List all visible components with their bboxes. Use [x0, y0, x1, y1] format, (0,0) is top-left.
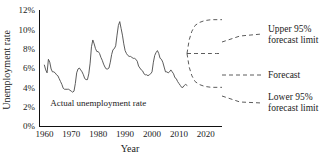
- x-tick-label: 2000: [143, 129, 162, 139]
- x-tick-label: 2010: [170, 129, 189, 139]
- legend-forecast-label: Forecast: [268, 70, 301, 80]
- x-tick-label: 1960: [35, 129, 54, 139]
- y-tick-label: 4%: [23, 83, 36, 93]
- y-tick-label: 12%: [19, 5, 36, 15]
- y-axis-title: Unemployment rate: [1, 30, 12, 110]
- y-tick-label: 10%: [19, 25, 36, 35]
- legend-lower-limit-label-line1: Lower 95%: [268, 92, 313, 102]
- legend-upper-limit-label-line2: forecast limit: [268, 35, 319, 45]
- actual-series-annotation: Actual unemployment rate: [50, 98, 146, 108]
- x-tick-label: 1990: [116, 129, 135, 139]
- chart-figure: Unemployment rate 0%2%4%6%8%10%12% 19601…: [0, 0, 322, 162]
- y-tick-label: 6%: [23, 63, 36, 73]
- y-tick-label: 0%: [23, 121, 36, 131]
- legend-lower-limit-label-line2: forecast limit: [268, 103, 319, 113]
- y-tick-label: 2%: [23, 102, 36, 112]
- x-tick-label: 2020: [197, 129, 216, 139]
- x-tick-label: 1980: [89, 129, 108, 139]
- legend-upper-limit-label-line1: Upper 95%: [268, 24, 312, 34]
- x-tick-label: 1970: [62, 129, 81, 139]
- unemployment-rate-chart: Unemployment rate 0%2%4%6%8%10%12% 19601…: [0, 0, 322, 162]
- y-tick-label: 8%: [23, 44, 36, 54]
- x-axis-title: Year: [121, 143, 140, 154]
